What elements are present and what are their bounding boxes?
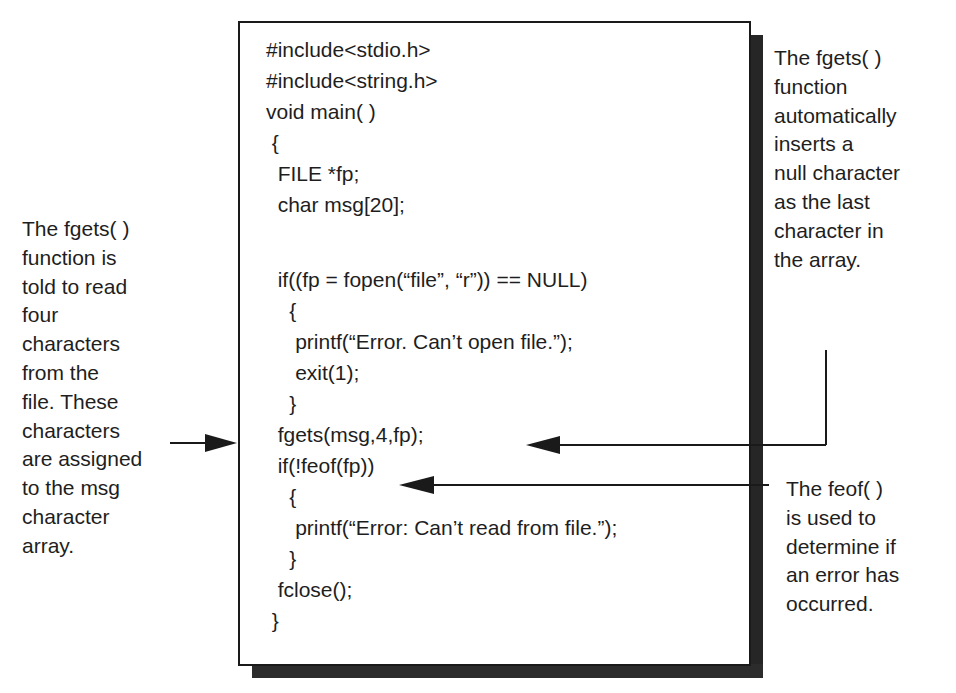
arrow-left-to-fgets [170, 434, 237, 452]
callout-arrows [0, 0, 956, 693]
arrow-feof-to-if [399, 476, 769, 494]
arrow-null-char-to-fgets [526, 350, 826, 454]
